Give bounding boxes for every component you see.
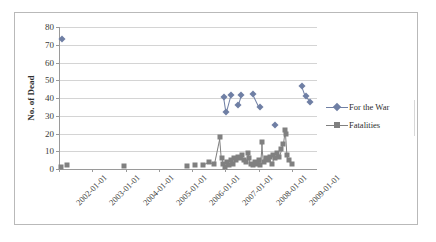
y-axis-tickmark [56,151,59,152]
y-axis-tickmark [56,80,59,81]
x-axis-tick-label: 2003-01-01 [108,173,142,207]
x-axis-tick-label: 2007-01-01 [241,173,275,207]
gridline [59,80,317,81]
legend-item-for-the-war: For the War [326,100,389,114]
gridline [59,45,317,46]
gridline [59,134,317,135]
x-axis-tick-label: 2005-01-01 [175,173,209,207]
gridline [59,27,317,28]
y-axis-tick-label: 20 [45,130,54,139]
x-axis-tick-label: 2004-01-01 [141,173,175,207]
y-axis-tick-label: 60 [45,59,54,68]
y-axis-tickmark [56,134,59,135]
y-axis-tick-label: 40 [45,94,54,103]
x-axis-tick-label: 2006-01-01 [208,173,242,207]
y-axis-tick-label: 30 [45,112,54,121]
chart-legend: For the War Fatalities [326,100,414,140]
x-axis-tickmark [259,169,260,172]
gridline [59,151,317,152]
y-axis-tickmark [56,98,59,99]
y-axis-tickmark [56,45,59,46]
x-axis-tickmark [292,169,293,172]
x-axis-tick-labels: 2002-01-012003-01-012004-01-012005-01-01… [59,169,317,225]
y-axis-tickmark [56,63,59,64]
x-axis-tick-label: 2008-01-01 [274,173,308,207]
x-axis-tickmark [192,169,193,172]
gridline [59,63,317,64]
legend-label-fatalities: Fatalities [348,120,380,130]
y-axis-tick-label: 50 [45,76,54,85]
plot-area [59,27,317,169]
y-axis-tick-label: 0 [50,165,55,174]
y-axis-tick-labels: 01020304050607080 [34,27,54,169]
legend-marker-square-icon [326,121,348,130]
y-axis-tick-label: 80 [45,23,54,32]
y-axis-tickmark [56,27,59,28]
legend-item-fatalities: Fatalities [326,118,380,132]
gridline [59,98,317,99]
gridline [59,116,317,117]
x-axis-tickmark [225,169,226,172]
y-axis-tick-label: 10 [45,147,54,156]
x-axis-tick-label: 2002-01-01 [75,173,109,207]
y-axis-tickmark [56,116,59,117]
x-axis-tickmark [59,169,60,172]
legend-marker-diamond-icon [326,103,348,112]
x-axis-tickmark [159,169,160,172]
legend-label-for-the-war: For the War [348,102,389,112]
y-axis-spine [59,27,60,169]
legend-divider [414,100,415,136]
chart-figure: No. of Dead 01020304050607080 2002-01-01… [0,0,436,242]
x-axis-tickmark [92,169,93,172]
y-axis-tick-label: 70 [45,41,54,50]
x-axis-tickmark [126,169,127,172]
